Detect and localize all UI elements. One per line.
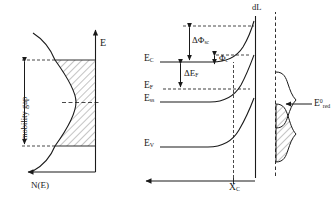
level-label-ess: Ess: [144, 94, 154, 104]
redox-level-label: E0red: [314, 99, 330, 110]
xc-sub: C: [236, 186, 240, 192]
level-label-ec: EC: [144, 54, 154, 64]
level-ef-sub: F: [150, 84, 153, 90]
annotation-delta-ef: ΔEF: [184, 69, 198, 79]
annotation-delta-phi-sc: ΔΦsc: [192, 36, 209, 46]
delta-ef-base: ΔE: [184, 68, 195, 78]
diagram-svg: [0, 0, 333, 197]
level-ec-sub: C: [150, 57, 154, 63]
dos-axis-label: N(E): [31, 181, 49, 190]
xc-base: X: [229, 182, 236, 192]
band-axes: [146, 12, 276, 181]
redox-sub: red: [323, 103, 331, 109]
valence-band-curve: [160, 98, 254, 147]
annotation-phi-c: Φc: [219, 54, 228, 64]
level-label-ef: EF: [144, 81, 153, 91]
delta-phi-sc-base: ΔΦ: [192, 35, 204, 45]
conduction-band-curve: [166, 21, 254, 62]
delta-phi-sc-sub: sc: [204, 39, 209, 45]
figure-canvas: E N(E) mobility gap EC EF Ess EV ΔΦsc Φc…: [0, 0, 333, 197]
reduced-gaussian-hatched: [276, 104, 296, 162]
level-ev-sub: V: [150, 142, 154, 148]
delta-ef-sub: F: [195, 72, 198, 78]
phi-c-base: Φ: [219, 53, 226, 63]
level-ess-sub: ss: [150, 97, 155, 103]
interface-label: dL: [252, 3, 261, 12]
depth-label-xc: XC: [229, 183, 240, 193]
dos-curve: [33, 33, 76, 171]
phi-c-sub: c: [226, 57, 228, 63]
dos-hatched-region: [55, 60, 96, 146]
level-label-ev: EV: [144, 139, 154, 149]
mobility-gap-label: mobility gap: [20, 97, 29, 140]
energy-axis-label: E: [100, 38, 106, 48]
